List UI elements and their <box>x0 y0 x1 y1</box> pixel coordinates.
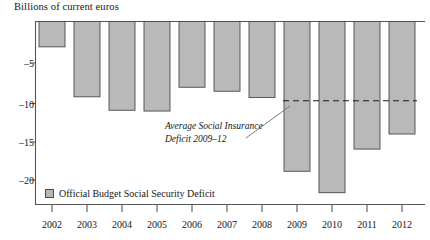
bar-2010 <box>319 22 345 193</box>
bar-2006 <box>179 22 205 88</box>
y-tick-label--10: –10 <box>19 98 34 109</box>
bar-2004 <box>109 22 135 111</box>
x-tick-label-2003: 2003 <box>77 219 97 230</box>
x-tick-label-2004: 2004 <box>112 219 132 230</box>
x-tick-label-2009: 2009 <box>287 219 307 230</box>
x-tick-label-2007: 2007 <box>217 219 237 230</box>
chart-figure: Billions of current euros <box>0 0 430 240</box>
y-tick-label--15: –15 <box>19 137 34 148</box>
bars-group <box>39 22 415 193</box>
bar-2011 <box>354 22 380 150</box>
annotation-line-1: Average Social Insurance <box>165 120 263 133</box>
bar-2003 <box>74 22 100 97</box>
annotation-line-2: Deficit 2009–12 <box>165 133 263 146</box>
bar-2002 <box>39 22 65 47</box>
chart-legend: Official Budget Social Security Deficit <box>45 188 215 199</box>
bar-2008 <box>249 22 275 98</box>
y-axis-ticks <box>30 63 35 180</box>
bar-2009 <box>284 22 310 172</box>
legend-swatch-official-budget-deficit <box>45 189 54 198</box>
x-tick-label-2012: 2012 <box>392 219 412 230</box>
x-tick-label-2008: 2008 <box>252 219 272 230</box>
y-tick-label--20: –20 <box>19 175 34 186</box>
x-tick-label-2006: 2006 <box>182 219 202 230</box>
x-axis-ticks <box>52 205 402 212</box>
bar-2005 <box>144 22 170 112</box>
average-deficit-annotation: Average Social Insurance Deficit 2009–12 <box>165 120 263 145</box>
x-tick-label-2002: 2002 <box>42 219 62 230</box>
x-tick-label-2011: 2011 <box>357 219 377 230</box>
legend-label-official-budget-deficit: Official Budget Social Security Deficit <box>59 188 215 199</box>
x-tick-label-2005: 2005 <box>147 219 167 230</box>
bar-2007 <box>214 22 240 92</box>
y-tick-label--5: –5 <box>24 58 34 69</box>
bar-2012 <box>389 22 415 135</box>
x-tick-label-2010: 2010 <box>322 219 342 230</box>
